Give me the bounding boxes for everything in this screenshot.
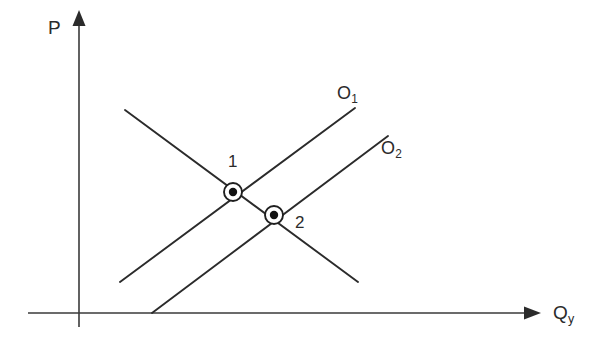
quantity-axis-label-subscript: y: [568, 312, 574, 326]
equilibrium-point-2-label: 2: [295, 214, 304, 231]
quantity-axis-arrow-icon: [524, 307, 541, 320]
supply-curve-o1-label-subscript: 1: [351, 92, 358, 106]
supply-curve-o2-label-text: O: [381, 138, 395, 158]
supply-curve-o1-label-text: O: [337, 83, 351, 103]
diagram-canvas: [0, 0, 603, 347]
supply-curve-o2-label-subscript: 2: [395, 147, 402, 161]
price-axis-arrow-icon: [73, 10, 86, 26]
quantity-axis-label-text: Q: [553, 302, 568, 323]
price-axis-label-text: P: [48, 17, 61, 38]
equilibrium-point-1-marker: [229, 188, 237, 196]
supply-demand-figure: P Qy O1 O2 1 2: [0, 0, 603, 347]
equilibrium-point-1-label: 1: [228, 153, 237, 170]
price-axis-label: P: [48, 18, 61, 37]
supply-curve-o1-label: O1: [337, 84, 358, 102]
equilibrium-point-2-marker: [270, 211, 278, 219]
supply-curve-o2-label: O2: [381, 139, 402, 157]
supply-curve-o2: [152, 136, 388, 313]
quantity-axis-label: Qy: [553, 303, 574, 322]
